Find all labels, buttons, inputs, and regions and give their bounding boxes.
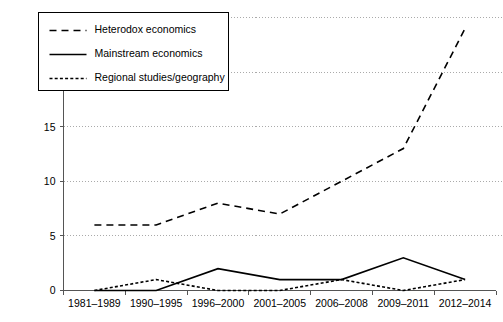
x-tick-label: 2001–2005 <box>253 297 306 309</box>
legend-label: Regional studies/geography <box>95 71 226 83</box>
x-tick-label: 2012–2014 <box>439 297 492 309</box>
x-tick-label: 2006–2008 <box>315 297 368 309</box>
x-tick-label: 2009–2011 <box>377 297 429 309</box>
x-tick-label: 1981–1989 <box>68 297 121 309</box>
series-line-mainstream-economics <box>94 258 465 291</box>
legend-label: Mainstream economics <box>95 47 203 59</box>
chart-legend: Heterodox economicsMainstream economicsR… <box>39 13 229 91</box>
x-tick-label: 1990–1995 <box>130 297 183 309</box>
line-chart: 0510152025 1981–19891990–19951996–200020… <box>0 0 503 322</box>
y-tick-label: 5 <box>50 230 56 242</box>
y-tick-label: 0 <box>50 284 56 296</box>
series-line-regional-studies-geography <box>94 280 465 291</box>
x-axis-ticks: 1981–19891990–19951996–20002001–20052006… <box>64 291 497 309</box>
x-tick-label: 1996–2000 <box>192 297 245 309</box>
legend-label: Heterodox economics <box>95 23 197 35</box>
chart-container: 0510152025 1981–19891990–19951996–200020… <box>0 0 503 322</box>
y-tick-label: 10 <box>44 175 56 187</box>
y-tick-label: 15 <box>44 121 56 133</box>
